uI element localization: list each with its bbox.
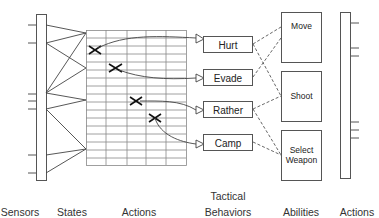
ability-label-line1: Select [290, 145, 314, 155]
behavior-label-hurt: Hurt [204, 37, 252, 53]
sensors-bar [28, 15, 47, 181]
ability-label-line2: Weapon [286, 155, 318, 165]
arrowhead-icon [196, 74, 204, 82]
action-grid [86, 30, 187, 166]
column-label-tactical-behaviors: Tactical Behaviors [198, 191, 258, 218]
arrowhead-icon [196, 140, 204, 148]
arrowhead-icon [196, 34, 204, 43]
ability-label-select-weapon: Select Weapon [282, 143, 321, 167]
column-label-actions-left: Actions [119, 207, 159, 218]
arrowhead-icon [196, 106, 204, 114]
behavior-label-rather: Rather [204, 102, 252, 118]
behavior-ability-links [253, 27, 281, 155]
ability-label-shoot: Shoot [282, 83, 321, 109]
tactical-line1: Tactical [198, 191, 258, 202]
column-label-actions-right: Actions [336, 207, 378, 218]
column-label-sensors: Sensors [0, 207, 40, 218]
column-label-states: States [52, 207, 92, 218]
actions-bar [341, 13, 360, 179]
state-connections [46, 25, 86, 173]
arrowheads [196, 34, 204, 148]
ability-label-move: Move [282, 13, 321, 39]
behavior-boxes [204, 37, 253, 151]
behavior-label-evade: Evade [204, 70, 252, 86]
behavior-label-camp: Camp [204, 135, 252, 151]
column-label-abilities: Abilities [279, 207, 323, 218]
tactical-line2: Behaviors [198, 207, 258, 218]
